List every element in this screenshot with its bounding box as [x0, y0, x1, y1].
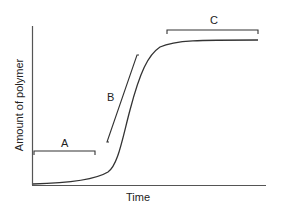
bracket-a	[34, 151, 95, 155]
bracket-c	[167, 30, 258, 34]
label-b: B	[107, 91, 114, 103]
label-a: A	[61, 137, 69, 149]
polymer-curve	[33, 40, 258, 184]
y-axis-label: Amount of polymer	[13, 59, 25, 152]
label-c: C	[210, 14, 218, 26]
polymerization-chart: A B C Time Amount of polymer	[0, 0, 285, 215]
x-axis-label: Time	[126, 191, 150, 203]
